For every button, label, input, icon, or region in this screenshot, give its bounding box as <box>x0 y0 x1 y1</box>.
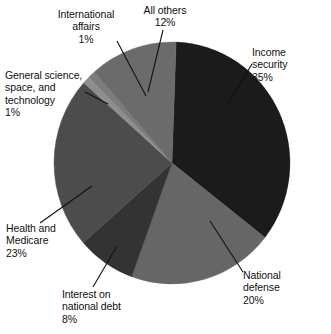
label-interest-on-national-debt: Interest on national debt 8% <box>62 288 178 325</box>
label-all-others: All others 12% <box>122 4 208 29</box>
label-income-security: Income security 35% <box>252 46 330 83</box>
label-general-science-space-technology: General science, space, and technology 1… <box>5 69 113 119</box>
pie-chart-figure: International affairs 1% All others 12% … <box>0 0 331 334</box>
label-health-and-medicare: Health and Medicare 23% <box>6 222 102 259</box>
label-national-defense: National defense 20% <box>243 269 329 306</box>
